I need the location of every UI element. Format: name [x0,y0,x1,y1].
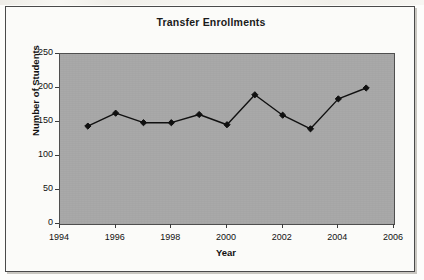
y-axis-tick-label: 200 [13,81,53,91]
x-axis-tick-label: 1994 [39,232,79,242]
y-axis-tick-label: 100 [13,149,53,159]
chart-title: Transfer Enrollments [6,16,416,28]
plot-area [59,53,395,225]
x-axis-tick-mark [115,224,116,228]
data-point-marker [140,120,146,126]
data-point-marker [168,120,174,126]
y-axis-tick-label: 50 [13,183,53,193]
data-point-marker [85,123,91,129]
x-axis-tick-label: 2000 [206,232,246,242]
x-axis-tick-mark [282,224,283,228]
x-axis-tick-mark [170,224,171,228]
scan-artifact-strip [0,0,424,5]
x-axis-tick-label: 2004 [317,232,357,242]
x-axis-tick-label: 1998 [150,232,190,242]
x-axis-tick-mark [393,224,394,228]
chart-figure: Transfer Enrollments Number of Students … [5,6,415,272]
data-point-marker [363,85,369,91]
y-axis-tick-label: 150 [13,115,53,125]
y-axis-tick-label: 0 [13,217,53,227]
y-axis-tick-label: 250 [13,47,53,57]
line-series-svg [60,54,394,224]
x-axis-tick-label: 2002 [262,232,302,242]
data-point-marker [113,110,119,116]
x-axis-tick-mark [59,224,60,228]
x-axis-tick-label: 1996 [95,232,135,242]
data-point-marker [196,111,202,117]
x-axis-tick-label: 2006 [373,232,413,242]
x-axis-tick-mark [337,224,338,228]
x-axis-title: Year [59,247,393,258]
x-axis-tick-mark [226,224,227,228]
